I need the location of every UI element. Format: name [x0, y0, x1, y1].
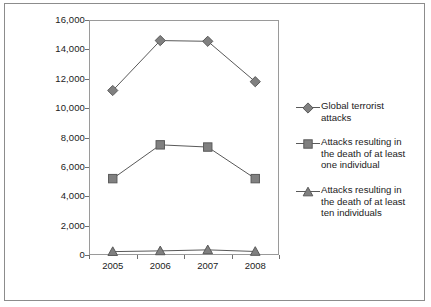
plot-area-wrapper: 02,0004,0006,0008,00010,00012,00014,0001… [5, 4, 290, 300]
y-axis-tick-label: 10,000 [39, 103, 85, 113]
series-line [113, 145, 256, 179]
legend-label: Attacks resulting in the death of at lea… [321, 184, 405, 219]
legend-marker-glyph [300, 184, 316, 200]
data-point-marker [303, 187, 313, 196]
data-point-marker [203, 245, 213, 254]
legend-marker-glyph [300, 136, 316, 152]
data-point-marker [156, 141, 164, 149]
y-axis-tick-label: 4,000 [39, 191, 85, 201]
series-line [113, 250, 256, 252]
chart-legend: Global terrorist attacksAttacks resultin… [295, 100, 423, 232]
series-0 [108, 35, 261, 95]
legend-marker-square-icon [295, 137, 321, 151]
y-axis-tick-label: 12,000 [39, 74, 85, 84]
y-axis-tick-label: 8,000 [39, 133, 85, 143]
series-1 [109, 141, 260, 183]
y-axis-tick-label: 2,000 [39, 221, 85, 231]
legend-entry: Global terrorist attacks [295, 100, 423, 123]
legend-marker-triangle-icon [295, 185, 321, 199]
y-axis-tick-label: 14,000 [39, 44, 85, 54]
series-2 [108, 245, 260, 255]
y-axis-tick-label: 16,000 [39, 15, 85, 25]
x-axis-labels: 2005200620072008 [89, 258, 279, 278]
legend-label: Global terrorist attacks [321, 100, 384, 123]
x-axis-tick-label: 2005 [93, 260, 133, 271]
chart-series-svg [89, 20, 279, 255]
y-axis-tick-label: 6,000 [39, 162, 85, 172]
data-point-marker [251, 174, 259, 182]
data-point-marker [204, 143, 212, 151]
figure-frame: 02,0004,0006,0008,00010,00012,00014,0001… [4, 3, 425, 301]
x-axis-tick-label: 2007 [188, 260, 228, 271]
legend-label: Attacks resulting in the death of at lea… [321, 136, 405, 171]
x-axis-tick-label: 2006 [140, 260, 180, 271]
data-point-marker [109, 174, 117, 182]
y-axis-tick-label: 0 [39, 250, 85, 260]
y-axis-labels: 02,0004,0006,0008,00010,00012,00014,0001… [35, 20, 85, 255]
legend-entry: Attacks resulting in the death of at lea… [295, 136, 423, 171]
legend-marker-glyph [300, 100, 316, 116]
legend-entry: Attacks resulting in the death of at lea… [295, 184, 423, 219]
x-axis-tick-mark [279, 255, 280, 259]
legend-marker-diamond-icon [295, 101, 321, 115]
data-point-marker [304, 140, 312, 148]
figure-background: 02,0004,0006,0008,00010,00012,00014,0001… [5, 4, 424, 300]
series-line [113, 41, 256, 91]
x-axis-tick-label: 2008 [235, 260, 275, 271]
data-point-marker [303, 103, 313, 113]
